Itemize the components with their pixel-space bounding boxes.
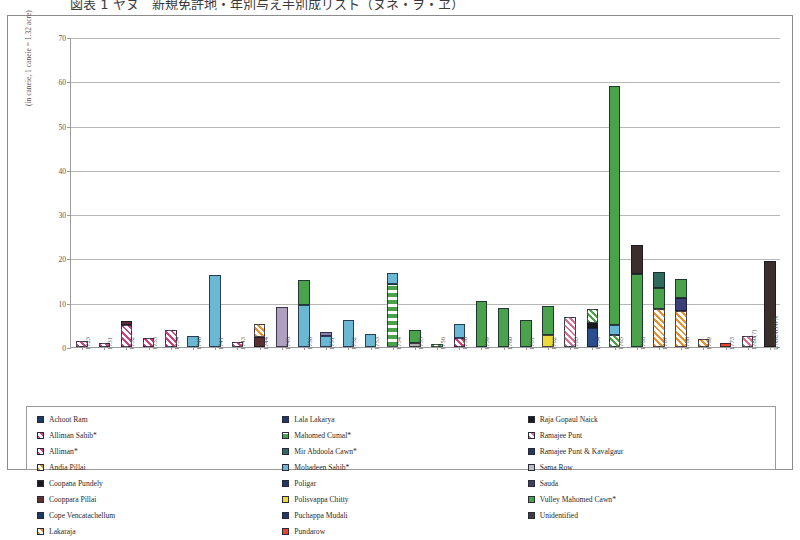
legend-item[interactable]: Puchappa Mudali <box>278 508 523 522</box>
bar-segment[interactable] <box>298 280 310 305</box>
bar-segment[interactable] <box>675 279 687 298</box>
bar-segment[interactable] <box>387 273 399 285</box>
legend-label: Coopana Pundely <box>49 479 103 488</box>
legend-swatch <box>37 528 44 535</box>
legend-item[interactable]: Unidentified <box>524 508 769 522</box>
legend-item[interactable]: Poligar <box>278 476 523 490</box>
legend-swatch <box>37 464 44 471</box>
chart-legend: Achoot RamLala LakaryaRaja Gopaul NaickA… <box>26 406 776 470</box>
legend-label: Sauda <box>540 479 559 488</box>
legend-swatch <box>37 448 44 455</box>
legend-item[interactable]: Sauda <box>524 476 769 490</box>
x-tick-label: 1762 <box>550 337 557 350</box>
document-caption: 図表 1 ヤヌ 新規免許地・年別与え手別成リスト（ヌネ・ヲ・ヱ） <box>70 0 730 10</box>
bar-segment[interactable] <box>609 86 621 325</box>
legend-swatch <box>282 432 289 439</box>
legend-item[interactable]: Ramajee Punt <box>524 428 769 442</box>
x-tick-label: 1756 <box>439 337 446 350</box>
legend-swatch <box>528 416 535 423</box>
bar-segment[interactable] <box>631 245 643 274</box>
x-tick-label: 1750 <box>306 337 313 350</box>
y-tick-label: 30 <box>40 211 66 220</box>
y-tick-label: 10 <box>40 299 66 308</box>
legend-label: Mir Abdoola Cawn* <box>294 447 356 456</box>
legend-label: Sama Row <box>540 463 573 472</box>
bar-group[interactable] <box>387 273 399 347</box>
x-tick-label: 1766 <box>639 337 646 350</box>
legend-item[interactable]: Vulley Mahomed Cawn* <box>524 492 769 506</box>
legend-item[interactable]: Lakaraja <box>33 524 278 538</box>
x-tick-label: 1734 <box>173 337 180 350</box>
legend-label: Achoot Ram <box>49 415 88 424</box>
legend-label: Lakaraja <box>49 527 76 536</box>
legend-label: Ramajee Punt <box>540 431 582 440</box>
legend-swatch <box>528 480 535 487</box>
legend-swatch <box>282 512 289 519</box>
y-axis-title: (in caneie, 1 caneie = 1.32 acre) <box>24 0 33 106</box>
legend-swatch <box>37 496 44 503</box>
x-tick-label: 1765 <box>617 337 624 350</box>
x-tick-label: 1753 <box>373 337 380 350</box>
bar-segment[interactable] <box>609 325 621 335</box>
bar-series-container <box>71 38 780 347</box>
legend-item[interactable]: Raja Gopaul Naick <box>524 412 769 426</box>
legend-item[interactable]: Andia Pillai <box>33 460 278 474</box>
legend-swatch <box>282 464 289 471</box>
bar-segment[interactable] <box>675 298 687 311</box>
legend-label: Cooppara Pillai <box>49 495 96 504</box>
legend-item[interactable]: Coopana Pundely <box>33 476 278 490</box>
bar-segment[interactable] <box>631 274 643 348</box>
legend-swatch <box>282 528 289 535</box>
legend-item[interactable]: Achoot Ram <box>33 412 278 426</box>
legend-item[interactable]: Alliman* <box>33 444 278 458</box>
x-tick-label: 1751 <box>328 337 335 350</box>
x-tick-label: 1758 <box>461 337 468 350</box>
x-tick-label: 1754 <box>395 337 402 350</box>
bar-segment[interactable] <box>653 272 665 288</box>
legend-item[interactable]: Mir Abdoola Cawn* <box>278 444 523 458</box>
x-tick-label: 1752 <box>350 337 357 350</box>
legend-swatch <box>528 464 535 471</box>
x-tick-label: 1759 <box>483 337 490 350</box>
x-tick-label: 1780(?) <box>750 330 757 350</box>
legend-label: Raja Gopaul Naick <box>540 415 598 424</box>
legend-label: Mohadeen Sahib* <box>294 463 349 472</box>
legend-swatch <box>37 416 44 423</box>
y-tick-label: 70 <box>40 34 66 43</box>
bar-segment[interactable] <box>254 324 266 337</box>
bar-segment[interactable] <box>587 323 599 329</box>
legend-item[interactable]: Sama Row <box>524 460 769 474</box>
legend-item[interactable]: Alliman Sahib* <box>33 428 278 442</box>
x-tick-label: 1741 <box>217 337 224 350</box>
bar-group[interactable] <box>653 272 665 347</box>
x-tick-label: 1763 <box>572 337 579 350</box>
legend-swatch <box>528 496 535 503</box>
bar-group[interactable] <box>675 272 687 347</box>
bar-segment[interactable] <box>320 332 332 336</box>
y-axis-ticks: 010203040506070 <box>38 16 66 326</box>
bar-segment[interactable] <box>587 309 599 323</box>
x-tick-label: 1740 <box>195 337 202 350</box>
bar-segment[interactable] <box>653 288 665 309</box>
bar-group[interactable] <box>631 245 643 347</box>
legend-item[interactable]: Ramajee Punt & Kavalgaur <box>524 444 769 458</box>
legend-item[interactable]: Mahomed Cumal* <box>278 428 523 442</box>
x-tick-label: 1767 <box>661 337 668 350</box>
legend-item[interactable] <box>524 524 769 538</box>
legend-item[interactable]: Mohadeen Sahib* <box>278 460 523 474</box>
legend-item[interactable]: Pundarow <box>278 524 523 538</box>
bar-group[interactable] <box>609 86 621 347</box>
y-tick-label: 60 <box>40 78 66 87</box>
legend-item[interactable]: Cope Vencatachellum <box>33 508 278 522</box>
legend-item[interactable]: Lala Lakarya <box>278 412 523 426</box>
legend-label: Polisvappa Chitty <box>294 495 348 504</box>
x-tick-label: 1768 <box>683 337 690 350</box>
bar-segment[interactable] <box>542 306 554 335</box>
legend-label: Alliman Sahib* <box>49 431 97 440</box>
legend-swatch <box>37 512 44 519</box>
legend-label: Pundarow <box>294 527 325 536</box>
legend-swatch <box>528 512 535 519</box>
legend-item[interactable]: Cooppara Pillai <box>33 492 278 506</box>
bar-segment[interactable] <box>121 321 133 325</box>
legend-item[interactable]: Polisvappa Chitty <box>278 492 523 506</box>
